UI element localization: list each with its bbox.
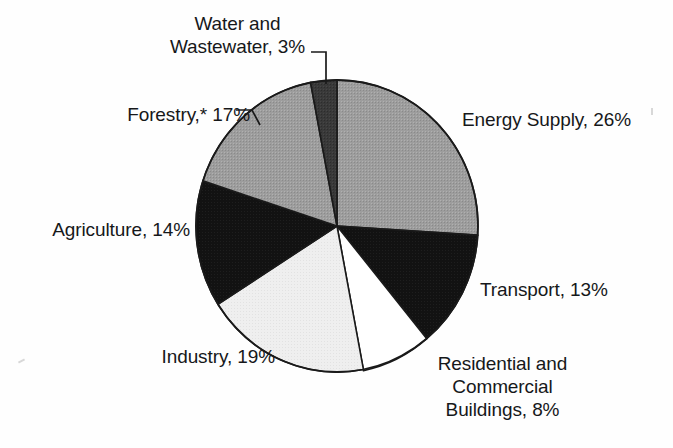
pie-label-transport: Transport, 13% bbox=[480, 278, 660, 301]
pie-label-residential-line-1: Residential and bbox=[438, 353, 567, 374]
pie-label-residential-line-3: Buildings, 8% bbox=[446, 399, 560, 420]
pie-label-residential-line-2: Commercial bbox=[452, 376, 552, 397]
pie-label-forestry: Forestry,* 17% bbox=[60, 103, 250, 126]
pie-chart-figure: Water andWastewater, 3% Forestry,* 17% A… bbox=[0, 0, 673, 448]
pie-label-industry: Industry, 19% bbox=[95, 345, 275, 368]
scan-artifact-right bbox=[651, 108, 653, 115]
pie-label-energy-supply: Energy Supply, 26% bbox=[462, 108, 672, 131]
pie-label-water-line-2: Wastewater, 3% bbox=[170, 36, 305, 57]
pie-label-water-and-wastewater: Water andWastewater, 3% bbox=[150, 12, 325, 58]
pie-label-agriculture: Agriculture, 14% bbox=[10, 218, 190, 241]
pie-label-water-line-1: Water and bbox=[194, 13, 280, 34]
pie-slice-energy-supply[interactable] bbox=[337, 80, 478, 235]
pie-label-residential-commercial-buildings: Residential andCommercialBuildings, 8% bbox=[410, 352, 595, 421]
